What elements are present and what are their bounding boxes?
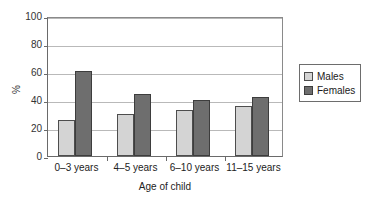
x-tick-label: 4–5 years [106,162,165,174]
legend-item: Females [304,83,355,97]
y-tick-label: 60 [16,68,42,78]
bar-males [176,110,193,156]
x-tick-mark [166,156,167,161]
bar-females [193,100,210,156]
bar-males [235,106,252,156]
x-axis-title: Age of child [47,181,283,192]
bar-females [134,94,151,156]
bar-females [252,97,269,156]
bar-males [58,120,75,156]
chart-legend: MalesFemales [299,64,361,102]
x-tick-mark [107,156,108,161]
bar-chart: % 020406080100 0–3 years4–5 years6–10 ye… [0,0,376,203]
legend-label: Females [317,85,355,96]
y-tick-label: 80 [16,40,42,50]
x-tick-label: 11–15 years [224,162,283,174]
legend-swatch-icon [304,72,313,81]
legend-label: Males [317,71,344,82]
y-axis-tick-labels: 020406080100 [14,0,42,203]
bar-females [75,71,92,156]
x-axis-tick-labels: 0–3 years4–5 years6–10 years11–15 years [47,162,283,176]
x-tick-label: 6–10 years [165,162,224,174]
y-tick-label: 40 [16,96,42,106]
legend-item: Males [304,69,355,83]
y-tick-mark [44,158,48,159]
y-tick-label: 20 [16,124,42,134]
x-tick-mark [225,156,226,161]
y-tick-label: 0 [16,152,42,162]
legend-swatch-icon [304,86,313,95]
bar-males [117,114,134,156]
y-tick-label: 100 [16,12,42,22]
x-tick-label: 0–3 years [47,162,106,174]
bars-layer [48,18,282,156]
plot-area [47,17,283,157]
